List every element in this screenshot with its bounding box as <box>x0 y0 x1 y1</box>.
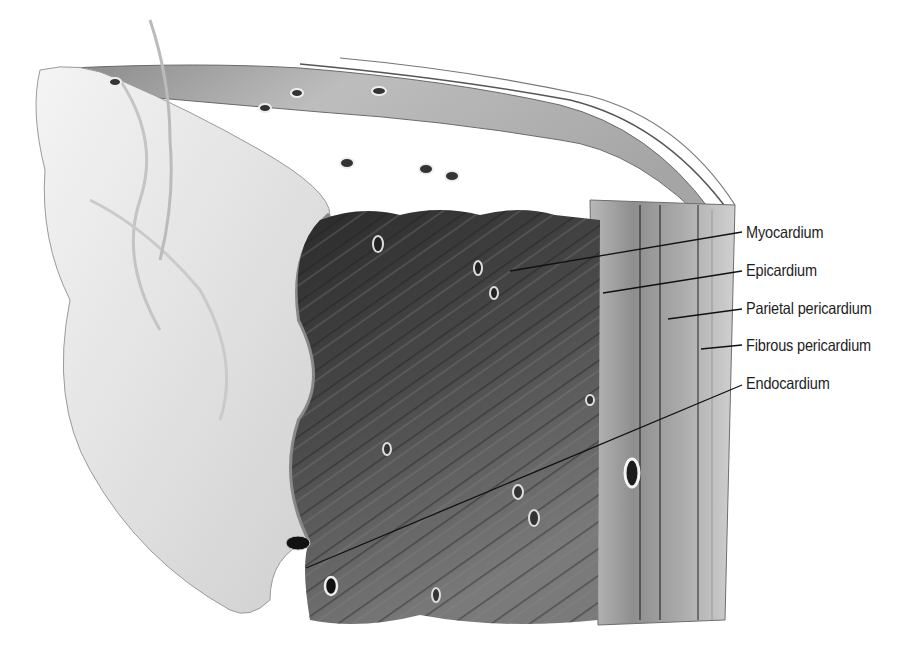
label-fibrous-pericardium: Fibrous pericardium <box>746 337 871 354</box>
label-myocardium: Myocardium <box>746 224 823 241</box>
label-parietal-pericardium: Parietal pericardium <box>746 300 872 317</box>
label-endocardium: Endocardium <box>746 375 830 392</box>
label-epicardium: Epicardium <box>746 262 817 279</box>
myocardium-block <box>292 210 600 624</box>
layered-wall-cut-face <box>590 200 735 625</box>
heart-wall-diagram: Myocardium Epicardium Parietal pericardi… <box>0 0 920 671</box>
